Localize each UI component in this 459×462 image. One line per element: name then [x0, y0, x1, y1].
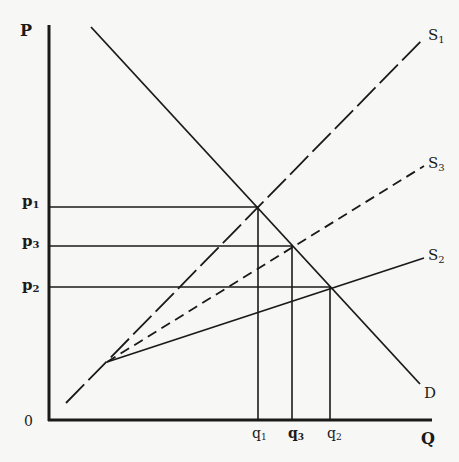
price-label-p1: p1	[22, 192, 39, 210]
s3-label: S3	[428, 154, 445, 173]
supply-curve-s3	[107, 166, 424, 362]
s2-label: S2	[428, 246, 445, 265]
price-label-p2: p2	[22, 276, 40, 294]
quantity-label-q2: q2	[327, 425, 342, 442]
quantity-label-q3: q3	[288, 425, 304, 442]
x-axis-label: Q	[421, 429, 435, 448]
supply-curve-s2	[107, 258, 424, 362]
s1-label: S1	[428, 26, 445, 45]
supply-demand-chart: P Q 0 p1 p3 p2 q1 q3 q2 S1 S3 S2 D	[0, 0, 459, 462]
origin-label: 0	[24, 413, 33, 429]
price-label-p3: p3	[22, 232, 40, 250]
demand-label: D	[424, 384, 436, 402]
demand-curve	[91, 27, 420, 384]
y-axis-label: P	[20, 21, 32, 40]
quantity-label-q1: q1	[252, 425, 267, 442]
supply-curve-s1	[66, 38, 424, 403]
